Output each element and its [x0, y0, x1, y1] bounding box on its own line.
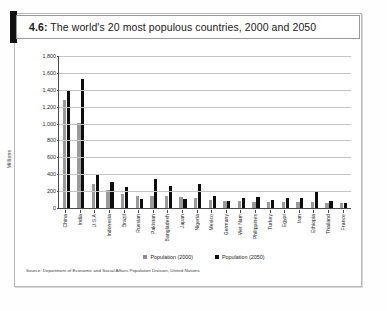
bar: [271, 200, 274, 208]
figure-title-text: The world's 20 most populous countries, …: [50, 21, 316, 33]
y-tick-label: 200: [47, 188, 56, 194]
x-tick-label: Pakistan: [150, 214, 156, 234]
bar: [121, 194, 124, 208]
x-tick-mark: [299, 210, 300, 213]
bar: [81, 79, 84, 208]
x-tick-mark: [153, 210, 154, 213]
x-axis-tick: Indonesia: [102, 210, 117, 254]
x-tick-label: France: [340, 214, 346, 230]
y-tick-label: 1,000: [43, 121, 57, 127]
bar-group: [59, 56, 74, 208]
x-axis-tick: Turkey: [262, 210, 277, 254]
x-tick-label: Russian: [135, 214, 141, 233]
bar: [340, 203, 343, 208]
y-tick-label: 1,600: [43, 70, 57, 76]
bar: [169, 186, 172, 208]
bar: [325, 203, 328, 208]
x-axis-tick: China: [58, 210, 73, 254]
x-axis-tick: Pakistan: [146, 210, 161, 254]
y-tick-label: 1,400: [43, 87, 57, 93]
legend-swatch: [215, 255, 219, 259]
bar-group: [220, 56, 235, 208]
page-title: 4.6: The world's 20 most populous countr…: [17, 21, 316, 33]
x-tick-mark: [284, 210, 285, 213]
bar: [282, 202, 285, 208]
bar: [77, 123, 80, 208]
x-axis-tick: Iran: [292, 210, 307, 254]
x-tick-mark: [240, 210, 241, 213]
bar-group: [234, 56, 249, 208]
x-tick-label: Mexico: [208, 214, 214, 230]
x-tick-label: Turkey: [267, 214, 273, 230]
bar: [136, 196, 139, 208]
x-tick-label: Nigeria: [194, 214, 200, 231]
bar-group: [132, 56, 147, 208]
bar: [227, 201, 230, 208]
x-tick-label: Germany: [223, 214, 229, 235]
x-tick-label: Japan: [179, 214, 185, 228]
y-tick-label: 1,800: [43, 53, 57, 59]
y-tick-label: 400: [47, 171, 56, 177]
bar-group: [103, 56, 118, 208]
y-tick-label: 1,200: [43, 104, 57, 110]
x-tick-label: U.S.A: [91, 214, 97, 228]
bar-group: [88, 56, 103, 208]
bar-group: [147, 56, 162, 208]
x-tick-mark: [226, 210, 227, 213]
x-tick-mark: [94, 210, 95, 213]
x-tick-mark: [138, 210, 139, 213]
grid-line: [59, 73, 351, 74]
x-axis-tick: Thailand: [321, 210, 336, 254]
grid-line: [59, 140, 351, 141]
x-tick-mark: [80, 210, 81, 213]
bar: [110, 182, 113, 208]
x-tick-label: Indonesia: [106, 214, 112, 237]
bar-series-container: [59, 56, 351, 208]
screenshot-page: 4.6: The world's 20 most populous countr…: [0, 0, 387, 311]
x-axis-tick: Bangladesh: [160, 210, 175, 254]
x-axis-tick: Germany: [219, 210, 234, 254]
x-tick-mark: [270, 210, 271, 213]
bar-group: [205, 56, 220, 208]
x-axis-tick: U.S.A: [87, 210, 102, 254]
x-tick-mark: [343, 210, 344, 213]
x-tick-mark: [124, 210, 125, 213]
bar: [267, 202, 270, 208]
x-axis-tick: Philippines: [248, 210, 263, 254]
y-tick-label: 600: [47, 154, 56, 160]
bar-group: [307, 56, 322, 208]
bar: [154, 179, 157, 208]
bar: [179, 197, 182, 208]
grid-line: [59, 174, 351, 175]
grid-line: [59, 191, 351, 192]
bar-group: [190, 56, 205, 208]
bar: [300, 198, 303, 208]
y-tick-mark: [57, 174, 60, 175]
x-axis-tick: Viet Nam: [233, 210, 248, 254]
y-tick-mark: [57, 107, 60, 108]
bar-group: [336, 56, 351, 208]
x-tick-label: Philippines: [252, 214, 258, 239]
bar: [252, 202, 255, 208]
bar: [183, 199, 186, 208]
chart-legend: Population (2000)Population (2050): [58, 250, 350, 264]
grid-line: [59, 157, 351, 158]
x-tick-mark: [109, 210, 110, 213]
bar: [242, 198, 245, 208]
y-tick-label: 800: [47, 137, 56, 143]
figure-title-bar: 4.6: The world's 20 most populous countr…: [16, 15, 360, 39]
x-axis-tick: France: [335, 210, 350, 254]
bar: [165, 196, 168, 208]
x-axis-tick: Russian: [131, 210, 146, 254]
x-tick-mark: [65, 210, 66, 213]
y-tick-mark: [57, 124, 60, 125]
x-tick-label: Iran: [296, 214, 302, 223]
x-tick-mark: [182, 210, 183, 213]
bar: [223, 201, 226, 208]
x-tick-label: Viet Nam: [237, 214, 243, 235]
bar: [329, 201, 332, 208]
bar: [344, 203, 347, 208]
bar-group: [322, 56, 337, 208]
bar: [209, 200, 212, 208]
x-axis-tick: Egypt: [277, 210, 292, 254]
